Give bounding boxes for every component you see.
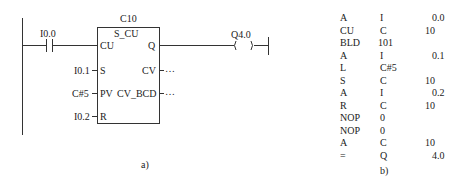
block-name: C10 (120, 14, 137, 24)
input-s-value: I0.1 (74, 66, 90, 76)
pin-q: Q (148, 41, 155, 51)
coil-label: Q4.0 (231, 30, 251, 40)
output-cv-bcd-value: … (165, 87, 175, 97)
caption-b: b) (380, 165, 388, 177)
pin-cv-bcd: CV_BCD (117, 89, 156, 99)
pin-cv: CV (142, 66, 156, 76)
pin-r: R (100, 112, 107, 122)
input-pv-value: C#5 (72, 89, 89, 99)
contact-label: I0.0 (40, 29, 56, 39)
input-r-value: I0.2 (74, 112, 90, 122)
block-type: S_CU (114, 29, 138, 39)
output-cv-value: … (165, 64, 175, 74)
pin-pv: PV (100, 89, 113, 99)
caption-a: a) (141, 160, 149, 170)
pin-s: S (100, 66, 106, 76)
pin-cu: CU (100, 41, 114, 51)
